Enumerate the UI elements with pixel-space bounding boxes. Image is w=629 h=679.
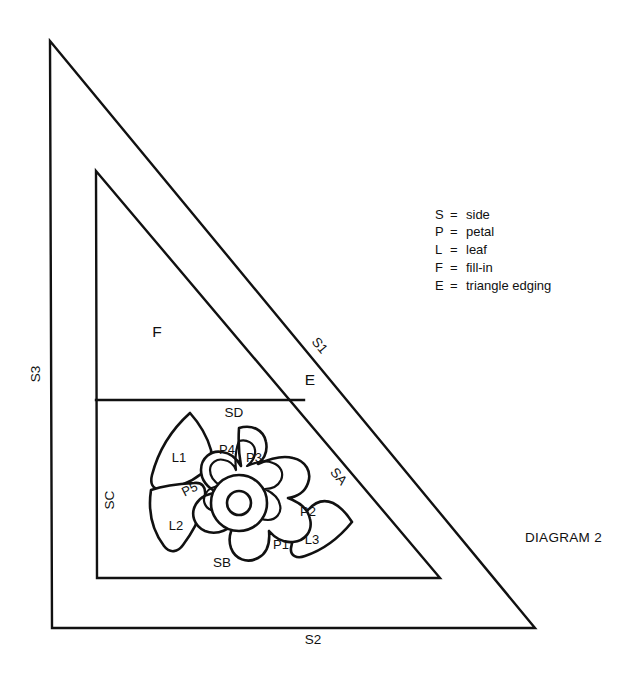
label-fill-in-region: F [152,323,161,340]
diagram-caption: DIAGRAM 2 [525,530,602,545]
legend-row-l: L = leaf [435,242,487,257]
label-sc: SC [102,490,117,509]
legend-separator-e: = [450,278,458,293]
legend-row-f: F = fill-in [435,260,493,275]
legend-row-e: E = triangle edging [435,278,551,293]
legend-meaning-f: fill-in [466,260,493,275]
legend-key-e: E [435,278,444,293]
label-p1: P1 [273,537,289,552]
legend-row-p: P = petal [435,224,494,239]
legend-meaning-s: side [466,207,490,222]
label-l3: L3 [305,532,319,547]
label-edging-region: E [305,371,315,388]
label-sb: SB [213,555,231,570]
legend-meaning-l: leaf [466,242,487,257]
legend-key-p: P [435,224,444,239]
legend-separator-s: = [450,207,458,222]
label-s2: S2 [305,632,322,647]
legend-meaning-p: petal [466,224,494,239]
label-p2: P2 [300,504,316,519]
label-s3: S3 [28,366,43,383]
legend-separator-p: = [450,224,458,239]
legend-key-l: L [435,242,442,257]
label-p4: P4 [219,442,235,457]
legend-row-s: S = side [435,207,490,222]
diagram-canvas: S1 S2 S3 SA SB SC SD F E P1 P2 P3 P4 P5 … [0,0,629,679]
legend-separator-l: = [450,242,458,257]
legend: S = side P = petal L = leaf F = fill-in … [435,207,551,293]
label-l2: L2 [169,518,183,533]
legend-key-s: S [435,207,444,222]
label-p3: P3 [246,450,262,465]
label-l1: L1 [172,450,186,465]
legend-meaning-e: triangle edging [466,278,551,293]
label-s1: S1 [309,334,331,356]
legend-separator-f: = [450,260,458,275]
legend-key-f: F [435,260,443,275]
flower-center-inner-circle [227,491,251,515]
label-sd: SD [225,405,244,420]
